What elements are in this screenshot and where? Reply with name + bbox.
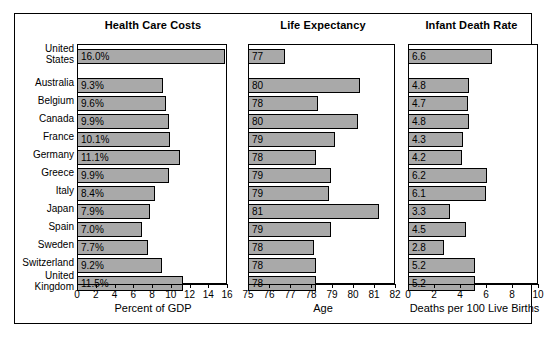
bar: 9.6% [77, 96, 166, 111]
x-axis-tick-label: 16 [221, 289, 232, 300]
bar-value-label: 6.6 [412, 50, 426, 64]
bar: 7.7% [77, 240, 148, 255]
bar-value-label: 7.7% [81, 241, 104, 255]
category-label: Canada [39, 114, 74, 125]
bar-value-label: 4.7 [412, 97, 426, 111]
bar: 4.3 [408, 132, 463, 147]
category-label: UnitedKingdom [35, 271, 74, 292]
bar-value-label: 78 [252, 97, 263, 111]
bar: 78 [248, 258, 316, 273]
bar: 4.8 [408, 78, 469, 93]
figure-frame: UnitedStatesAustraliaBelgiumCanadaFrance… [14, 13, 532, 324]
bar-value-label: 11.1% [81, 151, 109, 165]
bar: 78 [248, 240, 314, 255]
x-axis-title: Deaths per 100 Live Births [403, 302, 547, 314]
plot-area: 16.0%9.3%9.6%9.9%10.1%11.1%9.9%8.4%7.9%7… [77, 44, 227, 284]
category-label-line: Japan [47, 204, 74, 215]
category-label-line: Kingdom [35, 282, 74, 293]
bar-value-label: 7.0% [81, 223, 104, 237]
bar: 11.1% [77, 150, 180, 165]
x-axis: 7576777879808182 [248, 284, 395, 285]
bar-value-label: 4.8 [412, 79, 426, 93]
category-label: Spain [48, 222, 74, 233]
category-label: Sweden [38, 240, 74, 251]
bar: 9.9% [77, 168, 169, 183]
bar-value-label: 2.8 [412, 241, 426, 255]
x-axis-title: Percent of GDP [77, 302, 243, 314]
category-label-column: UnitedStatesAustraliaBelgiumCanadaFrance… [15, 14, 77, 323]
bar-value-label: 16.0% [81, 50, 109, 64]
panel-life-expectancy: Life Expectancy 778078807978797981797878… [243, 14, 403, 323]
x-axis-tick [171, 284, 172, 288]
x-axis-tick-label: 82 [389, 289, 400, 300]
x-axis-tick [311, 284, 312, 288]
x-axis-tick [538, 284, 539, 288]
bar-value-label: 81 [252, 205, 263, 219]
x-axis-tick [152, 284, 153, 288]
x-axis-tick [408, 284, 409, 288]
bar: 79 [248, 186, 329, 201]
category-label-line: Italy [56, 186, 74, 197]
x-axis-tick-label: 8 [509, 289, 515, 300]
x-axis-tick [395, 284, 396, 288]
bar: 10.1% [77, 132, 170, 147]
bar: 9.2% [77, 258, 162, 273]
bar: 5.2 [408, 258, 475, 273]
x-axis-tick-label: 75 [242, 289, 253, 300]
category-label: UnitedStates [45, 44, 74, 65]
bar: 6.2 [408, 168, 487, 183]
panel-container: UnitedStatesAustraliaBelgiumCanadaFrance… [15, 14, 531, 323]
bar-value-label: 79 [252, 133, 263, 147]
bar-value-label: 77 [252, 50, 263, 64]
bar: 79 [248, 132, 335, 147]
bar-value-label: 10.1% [81, 133, 109, 147]
bar-value-label: 78 [252, 259, 263, 273]
bar-value-label: 9.2% [81, 259, 104, 273]
bar-value-label: 6.2 [412, 169, 426, 183]
panel-title: Health Care Costs [77, 19, 243, 31]
category-label-line: Belgium [38, 96, 74, 107]
category-label: Belgium [38, 96, 74, 107]
x-axis-tick-label: 77 [284, 289, 295, 300]
category-label-line: States [45, 55, 74, 66]
x-axis-tick [374, 284, 375, 288]
category-label-line: Sweden [38, 240, 74, 251]
bar: 8.4% [77, 186, 155, 201]
bar: 7.0% [77, 222, 142, 237]
x-axis-tick [248, 284, 249, 288]
x-axis-tick-label: 0 [74, 289, 80, 300]
x-axis-tick-label: 2 [93, 289, 99, 300]
x-axis-tick-label: 2 [431, 289, 437, 300]
x-axis-title: Age [243, 302, 403, 314]
bar-value-label: 4.8 [412, 115, 426, 129]
bar-value-label: 80 [252, 79, 263, 93]
bar: 2.8 [408, 240, 444, 255]
x-axis-tick [486, 284, 487, 288]
category-label-line: Switzerland [22, 258, 74, 269]
category-label: Australia [35, 78, 74, 89]
x-axis-tick [512, 284, 513, 288]
category-label-line: France [43, 132, 74, 143]
x-axis-tick-label: 6 [483, 289, 489, 300]
bar-value-label: 78 [252, 241, 263, 255]
bar-value-label: 79 [252, 187, 263, 201]
bar-value-label: 7.9% [81, 205, 104, 219]
x-axis-tick-label: 76 [263, 289, 274, 300]
category-label: France [43, 132, 74, 143]
bar: 80 [248, 114, 358, 129]
bar: 4.8 [408, 114, 469, 129]
x-axis-tick [353, 284, 354, 288]
panel-health-care-costs: Health Care Costs 16.0%9.3%9.6%9.9%10.1%… [77, 14, 243, 323]
x-axis-tick [208, 284, 209, 288]
bar: 80 [248, 78, 360, 93]
panel-title: Infant Death Rate [403, 19, 547, 31]
bar-value-label: 9.3% [81, 79, 104, 93]
bar: 6.6 [408, 49, 492, 64]
panel-infant-death-rate: Infant Death Rate 6.64.84.74.84.34.26.26… [403, 14, 547, 323]
x-axis-tick-label: 4 [457, 289, 463, 300]
bar-value-label: 9.6% [81, 97, 104, 111]
category-label-line: Germany [33, 150, 74, 161]
x-axis: 0246810 [408, 284, 538, 285]
bar-value-label: 6.1 [412, 187, 426, 201]
bar: 81 [248, 204, 379, 219]
